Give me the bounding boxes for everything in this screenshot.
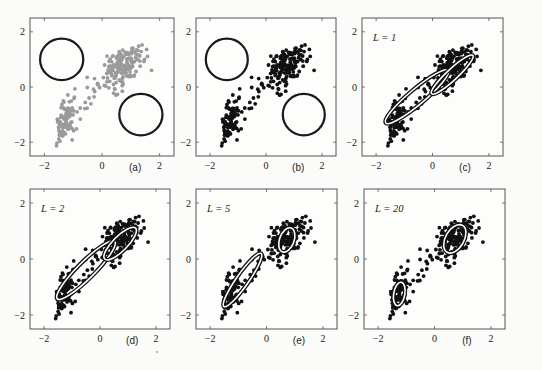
panel-label: (c) bbox=[459, 162, 471, 173]
x-tick-label: −2 bbox=[205, 333, 216, 344]
x-tick-label: −2 bbox=[373, 333, 384, 344]
x-tick-label: 2 bbox=[320, 333, 325, 344]
iteration-label: L = 1 bbox=[372, 32, 396, 43]
x-tick-label: 0 bbox=[98, 333, 103, 344]
y-tick-label: 2 bbox=[20, 198, 25, 209]
panel-f: −202−202(f)L = 20 bbox=[348, 189, 505, 346]
x-tick-label: −2 bbox=[39, 333, 50, 344]
y-tick-label: 0 bbox=[354, 254, 359, 265]
iteration-label: L = 2 bbox=[40, 203, 65, 214]
x-tick-label: 2 bbox=[488, 333, 493, 344]
x-tick-label: 0 bbox=[264, 333, 269, 344]
panel-label: (d) bbox=[126, 335, 138, 346]
x-tick-label: −2 bbox=[205, 160, 216, 171]
plot-frame bbox=[30, 18, 174, 156]
iteration-label: L = 20 bbox=[374, 203, 404, 214]
y-tick-label: 2 bbox=[352, 26, 357, 37]
panel-c: −202−202(c)L = 1 bbox=[346, 18, 503, 173]
x-tick-label: 2 bbox=[486, 160, 491, 171]
panel-label: (e) bbox=[293, 335, 305, 346]
x-tick-label: 2 bbox=[154, 333, 159, 344]
x-tick-label: 0 bbox=[100, 160, 105, 171]
stray-dot bbox=[156, 351, 158, 353]
panel-d: −202−202(d)L = 2 bbox=[14, 189, 170, 346]
panel-label: (f) bbox=[462, 335, 471, 346]
y-tick-label: 2 bbox=[354, 198, 359, 209]
y-tick-label: −2 bbox=[14, 137, 25, 148]
panel-a: −202−202(a) bbox=[14, 18, 174, 173]
y-tick-label: −2 bbox=[180, 137, 191, 148]
x-tick-label: 2 bbox=[157, 160, 162, 171]
iteration-label: L = 5 bbox=[206, 203, 230, 214]
panel-e: −202−202(e)L = 5 bbox=[180, 189, 337, 346]
y-tick-label: 0 bbox=[352, 82, 357, 93]
y-tick-label: −2 bbox=[348, 310, 359, 321]
y-tick-label: −2 bbox=[346, 137, 357, 148]
x-tick-label: −2 bbox=[371, 160, 382, 171]
y-tick-label: 2 bbox=[20, 26, 25, 37]
x-tick-label: 0 bbox=[432, 333, 437, 344]
y-tick-label: 0 bbox=[20, 254, 25, 265]
panel-label: (a) bbox=[129, 162, 141, 173]
figure-canvas: −202−202(a)−202−202(b)−202−202(c)L = 1−2… bbox=[0, 0, 542, 370]
plot-frame bbox=[196, 18, 336, 156]
x-tick-label: 0 bbox=[264, 160, 269, 171]
y-tick-label: 0 bbox=[186, 254, 191, 265]
x-tick-label: 0 bbox=[430, 160, 435, 171]
panel-b: −202−202(b) bbox=[180, 18, 336, 173]
x-tick-label: −2 bbox=[39, 160, 50, 171]
y-tick-label: 2 bbox=[186, 198, 191, 209]
y-tick-label: −2 bbox=[14, 310, 25, 321]
panels-group: −202−202(a)−202−202(b)−202−202(c)L = 1−2… bbox=[14, 18, 505, 346]
y-tick-label: 0 bbox=[186, 82, 191, 93]
y-tick-label: 0 bbox=[20, 82, 25, 93]
panel-label: (b) bbox=[292, 162, 304, 173]
x-tick-label: 2 bbox=[320, 160, 325, 171]
y-tick-label: −2 bbox=[180, 310, 191, 321]
y-tick-label: 2 bbox=[186, 26, 191, 37]
